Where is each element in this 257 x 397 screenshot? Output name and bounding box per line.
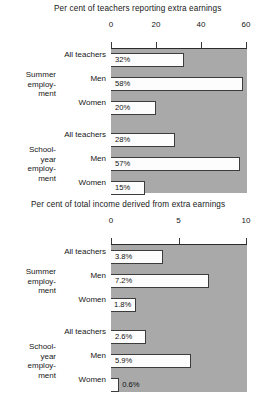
bar-value-label: 7.2% bbox=[111, 277, 132, 285]
group-label-line: ment bbox=[8, 286, 56, 296]
group-label-line: School- bbox=[8, 145, 56, 155]
x-tick-label: 20 bbox=[152, 20, 161, 30]
bar-value-label: 58% bbox=[111, 80, 130, 88]
group-label-line: year bbox=[8, 155, 56, 165]
bar-schoolyear-all-teachers: 28% bbox=[111, 133, 175, 147]
group-label-line: ment bbox=[8, 89, 56, 99]
group-label-summer-employment: Summer employ- ment bbox=[8, 70, 56, 99]
chart-1-plot-area: 32% 58% 20% 28% 57% bbox=[111, 48, 247, 193]
bar-row: 2.6% bbox=[111, 330, 146, 344]
category-label-summer-all-teachers: All teachers bbox=[64, 247, 106, 257]
chart-2-plot-area: 3.8% 7.2% 1.8% 2.6% 5.9% bbox=[111, 244, 247, 392]
chart-2-bars: 3.8% 7.2% 1.8% 2.6% 5.9% bbox=[111, 245, 247, 392]
bar-value-label: 3.8% bbox=[111, 253, 132, 261]
chart-1-bars: 32% 58% 20% 28% 57% bbox=[111, 49, 247, 193]
chart-2-x-axis: 0 5 10 bbox=[0, 216, 257, 244]
bar-row: 3.8% bbox=[111, 250, 163, 264]
chart-total-income-from-extra-earnings: Per cent of total income derived from ex… bbox=[0, 196, 257, 397]
group-label-line: School- bbox=[8, 342, 56, 352]
bar-row: 28% bbox=[111, 133, 175, 147]
category-label-summer-women: Women bbox=[79, 295, 106, 305]
bar-schoolyear-women: 15% bbox=[111, 181, 145, 195]
bar-row: 7.2% bbox=[111, 274, 209, 288]
bar-row: 20% bbox=[111, 101, 156, 115]
group-label-line: ment bbox=[8, 371, 56, 381]
bar-row: 58% bbox=[111, 77, 243, 91]
bar-value-label: 32% bbox=[111, 56, 130, 64]
bar-row: 57% bbox=[111, 157, 240, 171]
bar-schoolyear-men: 5.9% bbox=[111, 354, 191, 368]
group-label-line: employ- bbox=[8, 164, 56, 174]
bar-summer-men: 58% bbox=[111, 77, 243, 91]
bar-row: 15% bbox=[111, 181, 145, 195]
bar-schoolyear-women: 0.6% bbox=[111, 378, 119, 392]
bar-value-label: 0.6% bbox=[118, 381, 139, 389]
bar-value-label: 20% bbox=[111, 104, 130, 112]
bar-row: 0.6% bbox=[111, 378, 119, 392]
group-label-schoolyear-employment: School- year employ- ment bbox=[8, 342, 56, 380]
x-tick-label: 10 bbox=[242, 216, 251, 226]
bar-summer-women: 20% bbox=[111, 101, 156, 115]
group-label-line: Summer bbox=[8, 267, 56, 277]
category-label-summer-all-teachers: All teachers bbox=[64, 50, 106, 60]
group-label-line: ment bbox=[8, 174, 56, 184]
category-label-schoolyear-men: Men bbox=[90, 351, 106, 361]
group-label-line: Summer bbox=[8, 70, 56, 80]
chart-teachers-reporting-extra-earnings: Per cent of teachers reporting extra ear… bbox=[0, 0, 257, 196]
bar-row: 32% bbox=[111, 53, 184, 67]
bar-schoolyear-men: 57% bbox=[111, 157, 240, 171]
x-tick-label: 40 bbox=[197, 20, 206, 30]
group-label-line: employ- bbox=[8, 80, 56, 90]
bar-value-label: 1.8% bbox=[111, 301, 131, 309]
category-label-schoolyear-all-teachers: All teachers bbox=[64, 327, 106, 337]
x-tick-label: 0 bbox=[109, 216, 113, 226]
bar-row: 5.9% bbox=[111, 354, 191, 368]
category-label-schoolyear-men: Men bbox=[90, 154, 106, 164]
bar-value-label: 15% bbox=[111, 184, 130, 192]
category-label-schoolyear-women: Women bbox=[79, 375, 106, 385]
bar-summer-women: 1.8% bbox=[111, 298, 136, 312]
chart-1-x-axis: 0 20 40 60 bbox=[0, 20, 257, 48]
category-label-summer-men: Men bbox=[90, 271, 106, 281]
bar-schoolyear-all-teachers: 2.6% bbox=[111, 330, 146, 344]
bar-summer-men: 7.2% bbox=[111, 274, 209, 288]
category-label-schoolyear-women: Women bbox=[79, 178, 106, 188]
bar-value-label: 2.6% bbox=[111, 333, 132, 341]
group-label-line: employ- bbox=[8, 361, 56, 371]
chart-2-title: Per cent of total income derived from ex… bbox=[31, 200, 225, 209]
group-label-summer-employment: Summer employ- ment bbox=[8, 267, 56, 296]
bar-summer-all-teachers: 32% bbox=[111, 53, 184, 67]
bar-summer-all-teachers: 3.8% bbox=[111, 250, 163, 264]
group-label-schoolyear-employment: School- year employ- ment bbox=[8, 145, 56, 183]
x-tick-label: 60 bbox=[242, 20, 251, 30]
bar-value-label: 28% bbox=[111, 136, 130, 144]
category-label-schoolyear-all-teachers: All teachers bbox=[64, 130, 106, 140]
bar-value-label: 5.9% bbox=[111, 357, 132, 365]
bar-value-label: 57% bbox=[111, 160, 130, 168]
category-label-summer-men: Men bbox=[90, 74, 106, 84]
chart-1-title: Per cent of teachers reporting extra ear… bbox=[54, 4, 221, 13]
x-tick-label: 5 bbox=[176, 216, 180, 226]
bar-row: 1.8% bbox=[111, 298, 136, 312]
x-tick-label: 0 bbox=[109, 20, 113, 30]
group-label-line: employ- bbox=[8, 277, 56, 287]
category-label-summer-women: Women bbox=[79, 98, 106, 108]
group-label-line: year bbox=[8, 352, 56, 362]
